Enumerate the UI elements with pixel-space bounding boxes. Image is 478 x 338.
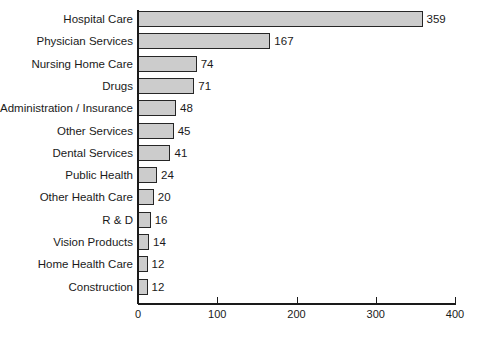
- bar-value-label: 14: [153, 235, 166, 250]
- bar: [138, 279, 148, 295]
- bar: [138, 212, 151, 228]
- x-axis-tick: [455, 297, 456, 303]
- bar: [138, 256, 148, 272]
- bar-category-label: Other Health Care: [40, 190, 133, 205]
- bar: [138, 234, 149, 250]
- bar-value-label: 71: [198, 79, 211, 94]
- bar-category-label: R & D: [102, 213, 133, 228]
- bar-category-label: Vision Products: [53, 235, 133, 250]
- bar: [138, 145, 170, 161]
- bar: [138, 11, 423, 27]
- bar-value-label: 45: [178, 124, 191, 139]
- bar-category-label: Construction: [68, 280, 133, 295]
- x-axis-tick-label: 0: [118, 307, 158, 321]
- x-axis-tick-label: 400: [435, 307, 475, 321]
- bar-category-label: Hospital Care: [63, 12, 133, 27]
- bar-category-label: Physician Services: [36, 34, 133, 49]
- bar-row: Administration / Insurance48: [0, 99, 478, 121]
- bar-row: Dental Services41: [0, 144, 478, 166]
- bar-row: Drugs71: [0, 77, 478, 99]
- bar-row: Construction12: [0, 278, 478, 300]
- bar: [138, 56, 197, 72]
- bar-value-label: 41: [174, 146, 187, 161]
- bar-value-label: 12: [152, 257, 165, 272]
- bar-value-label: 48: [180, 101, 193, 116]
- bar-row: Home Health Care12: [0, 255, 478, 277]
- x-axis-tick-label: 200: [277, 307, 317, 321]
- y-axis-line: [137, 10, 139, 304]
- bar-row: Vision Products14: [0, 233, 478, 255]
- bar: [138, 167, 157, 183]
- bar-category-label: Other Services: [57, 124, 133, 139]
- bar-value-label: 12: [152, 280, 165, 295]
- bar-value-label: 24: [161, 168, 174, 183]
- bar-value-label: 359: [427, 12, 446, 27]
- bar-row: Hospital Care359: [0, 10, 478, 32]
- bar-row: Other Health Care20: [0, 188, 478, 210]
- bar-category-label: Drugs: [102, 79, 133, 94]
- x-axis-tick: [138, 297, 139, 303]
- bar-row: Public Health24: [0, 166, 478, 188]
- x-axis-tick: [217, 297, 218, 303]
- x-axis-tick-label: 100: [197, 307, 237, 321]
- bar-row: Nursing Home Care74: [0, 55, 478, 77]
- bar-row: Physician Services167: [0, 32, 478, 54]
- bar: [138, 33, 270, 49]
- bar: [138, 78, 194, 94]
- bar-category-label: Nursing Home Care: [31, 57, 133, 72]
- bar: [138, 100, 176, 116]
- bar: [138, 189, 154, 205]
- x-axis-tick-label: 300: [356, 307, 396, 321]
- bar-chart: Hospital Care359Physician Services167Nur…: [0, 0, 478, 338]
- bar-category-label: Dental Services: [52, 146, 133, 161]
- x-axis-tick: [297, 297, 298, 303]
- bar-category-label: Home Health Care: [38, 257, 133, 272]
- x-axis-line: [138, 303, 456, 305]
- bar: [138, 123, 174, 139]
- bar-row: Other Services45: [0, 122, 478, 144]
- bar-category-label: Administration / Insurance: [0, 101, 133, 116]
- bar-value-label: 167: [274, 34, 293, 49]
- x-axis-tick: [376, 297, 377, 303]
- bar-row: R & D16: [0, 211, 478, 233]
- bar-value-label: 20: [158, 190, 171, 205]
- bar-category-label: Public Health: [65, 168, 133, 183]
- bar-value-label: 16: [155, 213, 168, 228]
- bar-value-label: 74: [201, 57, 214, 72]
